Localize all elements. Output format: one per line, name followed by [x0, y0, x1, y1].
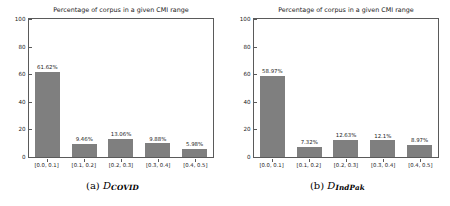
plot-wrapper-covid: Percentage of corpus in a given CMI rang…: [0, 0, 225, 178]
bar-value-label: 8.97%: [411, 137, 428, 143]
x-tick-label: [0.0, 0.1]: [253, 159, 290, 168]
bar-slot: 5.98%: [176, 19, 213, 157]
bar-slot: 7.32%: [291, 19, 328, 157]
chart-title: Percentage of corpus in a given CMI rang…: [253, 6, 439, 14]
bar[interactable]: 58.97%: [260, 76, 285, 157]
x-tick-label: [0.2, 0.3]: [102, 159, 139, 168]
bar-slot: 13.06%: [103, 19, 140, 157]
x-tick-label: [0.1, 0.2]: [65, 159, 102, 168]
x-tick-label: [0.3, 0.4]: [365, 159, 402, 168]
bar-value-label: 61.62%: [37, 64, 58, 70]
bar[interactable]: 9.88%: [145, 143, 170, 157]
chart-axes-indpak: 0 20 40 60 80 100 58.97% 7.32%: [253, 18, 439, 158]
bar-slot: 9.88%: [139, 19, 176, 157]
y-tick-label: 80: [243, 44, 254, 50]
bar-value-label: 9.46%: [76, 136, 93, 142]
subfigure-covid: Percentage of corpus in a given CMI rang…: [0, 0, 225, 206]
x-tick-label: [0.2, 0.3]: [327, 159, 364, 168]
bar-value-label: 12.1%: [374, 133, 391, 139]
x-axis-tick-labels-covid: [0.0, 0.1] [0.1, 0.2] [0.2, 0.3] [0.3, 0…: [28, 159, 214, 168]
caption-symbol: D: [103, 180, 111, 191]
y-tick-label: 40: [18, 99, 29, 105]
x-tick-label: [0.4, 0.5]: [402, 159, 439, 168]
subfigure-caption-covid: (a) DCOVID: [0, 180, 225, 192]
y-tick-label: 80: [18, 44, 29, 50]
caption-subscript: IndPak: [335, 183, 365, 192]
bar-slot: 12.63%: [328, 19, 365, 157]
bar-value-label: 7.32%: [301, 139, 318, 145]
bar[interactable]: 5.98%: [182, 149, 207, 157]
y-tick-label: 60: [18, 71, 29, 77]
x-tick-label: [0.3, 0.4]: [140, 159, 177, 168]
chart-title: Percentage of corpus in a given CMI rang…: [28, 6, 214, 14]
y-tick-label: 100: [15, 16, 29, 22]
bar-value-label: 58.97%: [262, 68, 283, 74]
x-tick-label: [0.0, 0.1]: [28, 159, 65, 168]
y-tick-label: 40: [243, 99, 254, 105]
bar-series-indpak: 58.97% 7.32% 12.63%: [254, 19, 438, 157]
subfigure-caption-indpak: (b) DIndPak: [225, 180, 450, 192]
bar[interactable]: 12.1%: [370, 140, 395, 157]
x-axis-tick-labels-indpak: [0.0, 0.1] [0.1, 0.2] [0.2, 0.3] [0.3, 0…: [253, 159, 439, 168]
bar-value-label: 9.88%: [149, 136, 166, 142]
caption-tag: (a): [86, 180, 100, 191]
x-tick-label: [0.1, 0.2]: [290, 159, 327, 168]
caption-subscript: COVID: [111, 183, 139, 192]
subfigure-indpak: Percentage of corpus in a given CMI rang…: [225, 0, 450, 206]
bar-series-covid: 61.62% 9.46% 13.06%: [29, 19, 213, 157]
figure-two-bar-charts: Percentage of corpus in a given CMI rang…: [0, 0, 450, 206]
bar-value-label: 12.63%: [336, 132, 357, 138]
bar[interactable]: 7.32%: [297, 147, 322, 157]
y-tick-label: 100: [240, 16, 254, 22]
bar-value-label: 5.98%: [186, 141, 203, 147]
bar[interactable]: 61.62%: [35, 72, 60, 157]
bar-value-label: 13.06%: [111, 131, 132, 137]
bar-slot: 8.97%: [401, 19, 438, 157]
plot-wrapper-indpak: Percentage of corpus in a given CMI rang…: [225, 0, 450, 178]
bar[interactable]: 12.63%: [333, 140, 358, 157]
y-tick-label: 20: [18, 126, 29, 132]
bar-slot: 12.1%: [364, 19, 401, 157]
y-tick-label: 20: [243, 126, 254, 132]
bar-slot: 61.62%: [29, 19, 66, 157]
bar[interactable]: 8.97%: [407, 145, 432, 157]
bar-slot: 58.97%: [254, 19, 291, 157]
caption-tag: (b): [310, 180, 324, 191]
chart-axes-covid: 0 20 40 60 80 100 61.62% 9.46%: [28, 18, 214, 158]
bar[interactable]: 13.06%: [108, 139, 133, 157]
y-tick-label: 60: [243, 71, 254, 77]
bar-slot: 9.46%: [66, 19, 103, 157]
x-tick-label: [0.4, 0.5]: [177, 159, 214, 168]
bar[interactable]: 9.46%: [72, 144, 97, 157]
